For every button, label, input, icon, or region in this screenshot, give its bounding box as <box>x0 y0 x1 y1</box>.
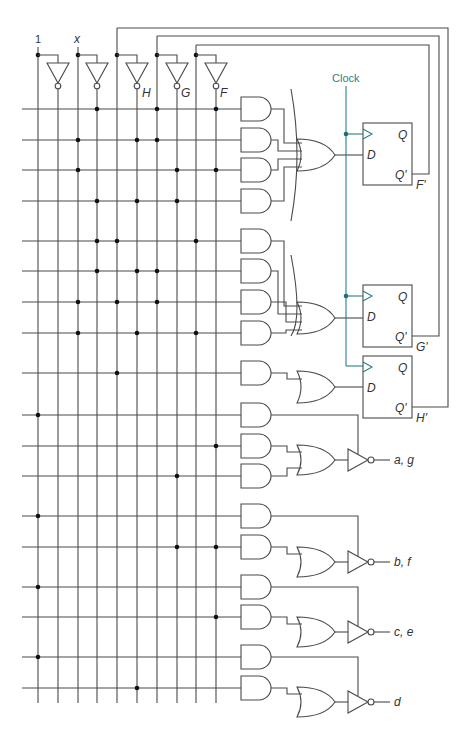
junction-dot <box>115 371 120 376</box>
inverter-gate <box>86 63 108 83</box>
and-gate <box>241 321 271 345</box>
or-input-extension <box>291 255 297 336</box>
input-inverters <box>38 55 227 89</box>
and-gate <box>241 676 271 700</box>
and-to-or-wire <box>271 167 302 201</box>
clock-junction-dot <box>344 132 349 137</box>
junction-dot <box>194 239 199 244</box>
and-to-or-wire <box>271 373 302 379</box>
junction-dot <box>135 686 140 691</box>
state-label-f: F <box>220 86 228 100</box>
inverter-input-wire <box>157 55 177 63</box>
or-input-extension <box>291 89 297 221</box>
junction-dot <box>175 168 180 173</box>
inverter-gate <box>205 63 227 83</box>
inverter-bubble <box>213 83 219 89</box>
ff-h-out-label: H' <box>416 411 428 425</box>
and-gate <box>241 229 271 253</box>
ff-h-qn: Q' <box>395 401 407 415</box>
and-gate <box>241 189 271 213</box>
ff-f-q: Q <box>398 128 407 142</box>
junction-dot <box>36 514 41 519</box>
junction-dot <box>135 138 140 143</box>
junction-dot <box>175 545 180 550</box>
and-gate <box>241 403 271 427</box>
input-label-1: 1 <box>35 33 41 45</box>
junction-dot <box>155 269 160 274</box>
junction-dot <box>214 615 219 620</box>
junction-dot <box>76 168 81 173</box>
inverter-gate <box>166 63 188 83</box>
junction-dot <box>135 331 140 336</box>
junction-dot <box>155 138 160 143</box>
junction-dot <box>155 107 160 112</box>
ff-g-d: D <box>367 310 376 324</box>
sequential-logic-circuit: 1 x H G F Clock Q D Q' F' Q D Q' G' Q D … <box>0 0 475 742</box>
and-gate <box>241 290 271 314</box>
and-gate <box>241 158 271 182</box>
output-label-ce: c, e <box>394 625 414 639</box>
ff-g-q: Q <box>398 290 407 304</box>
inverter-input-wire <box>38 55 58 63</box>
junction-dot <box>36 413 41 418</box>
junction-dot <box>95 107 100 112</box>
clock-junction-dot <box>344 294 349 299</box>
junction-dot <box>214 545 219 550</box>
junction-dot <box>115 300 120 305</box>
ff-f-qn: Q' <box>395 168 407 182</box>
clock-line <box>344 86 363 366</box>
ff-h-q: Q <box>398 361 407 375</box>
junction-dot <box>76 331 81 336</box>
clock-label: Clock <box>332 72 360 84</box>
and-gate <box>241 535 271 559</box>
inverter-input-wire <box>196 55 216 63</box>
and-gate <box>241 645 271 669</box>
inverter-bubble <box>368 457 374 463</box>
inverter-gate <box>126 63 148 83</box>
junction-dot <box>36 585 41 590</box>
and-gate <box>241 97 271 121</box>
junction-dot <box>175 474 180 479</box>
junction-dot <box>95 239 100 244</box>
inverter-input-wire <box>78 55 97 63</box>
or-gate-output <box>297 687 335 717</box>
output-label-bf: b, f <box>394 555 412 569</box>
or-gate-h <box>297 371 335 403</box>
product-term-rows <box>22 107 241 691</box>
inverter-gate <box>47 63 69 83</box>
junction-dot <box>155 300 160 305</box>
inverter-bubble <box>368 629 374 635</box>
junction-dot <box>214 107 219 112</box>
input-bus <box>36 28 216 703</box>
inverter-bubble <box>134 83 140 89</box>
or-gate-f <box>297 139 335 171</box>
or-gate-output <box>297 617 335 647</box>
inverter-bubble <box>368 559 374 565</box>
ff-h-d: D <box>367 381 376 395</box>
inverter-bubble <box>368 699 374 705</box>
inverter-bubble <box>174 83 180 89</box>
or-gate-output <box>297 547 335 577</box>
junction-dot <box>214 444 219 449</box>
logic-gates <box>241 89 363 717</box>
ff-g-qn: Q' <box>395 330 407 344</box>
or-gate-output <box>297 445 335 475</box>
junction-dot <box>76 138 81 143</box>
ff-f-out-label: F' <box>416 178 426 192</box>
inverter-bubble <box>94 83 100 89</box>
ff-g-out-label: G' <box>416 340 428 354</box>
and-gate <box>241 464 271 488</box>
junction-dot <box>115 239 120 244</box>
input-label-x: x <box>73 32 81 46</box>
feedback-wire-h <box>117 28 448 407</box>
and-gate <box>241 575 271 599</box>
and-gate <box>241 504 271 528</box>
feedback-loops <box>117 28 448 407</box>
output-label-ag: a, g <box>394 453 414 467</box>
and-gate <box>241 128 271 152</box>
junction-dot <box>194 331 199 336</box>
junction-dot <box>135 269 140 274</box>
junction-dot <box>95 199 100 204</box>
and-gate <box>241 361 271 385</box>
and-gate <box>241 259 271 283</box>
